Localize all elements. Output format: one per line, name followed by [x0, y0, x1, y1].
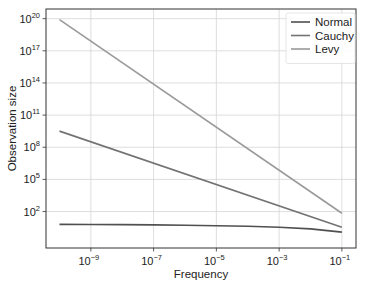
y-axis-label: Observation size — [6, 86, 18, 172]
chart: 10−910−710−510−310−1 1021051081011101410… — [0, 0, 365, 288]
legend-label-cauchy: Cauchy — [315, 30, 354, 42]
legend: NormalCauchyLevy — [286, 13, 355, 64]
x-axis-label: Frequency — [174, 268, 229, 280]
legend-label-normal: Normal — [315, 16, 352, 28]
legend-label-levy: Levy — [315, 43, 340, 55]
